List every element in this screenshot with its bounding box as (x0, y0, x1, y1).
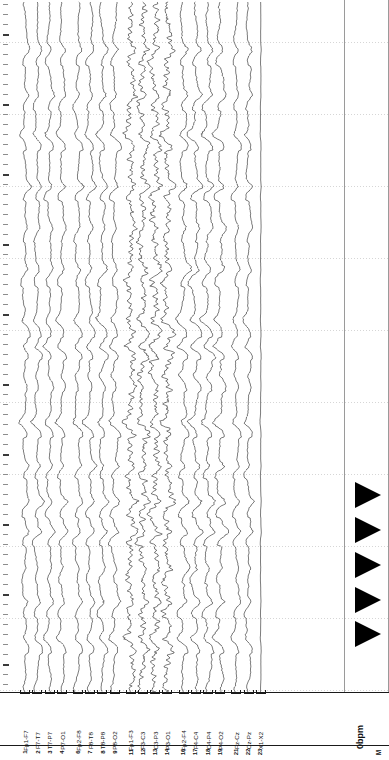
channel-label-t8-p8: T8-P8 (96, 694, 109, 744)
channel-number-13: 13 (149, 746, 162, 758)
eeg-page: Fp1-F71F7-T72T7-P73P7-O14Fp2-F86F8-T87T8… (0, 0, 389, 760)
eeg-trace-f8-t8 (82, 2, 97, 693)
calibration-tick (20, 693, 30, 694)
eeg-trace-c3-p3 (147, 2, 163, 693)
calibration-tick (45, 693, 55, 694)
calibration-tick (150, 693, 160, 694)
channel-number-text: 7 (87, 750, 93, 753)
channel-number-7: 7 (84, 746, 97, 758)
channel-number-2: 2 (31, 746, 44, 758)
channel-number-text: 6 (75, 750, 81, 753)
channel-number-11: 11 (124, 746, 137, 758)
channel-number-text: 17 (193, 749, 199, 756)
channel-label-f8-t8: F8-T8 (84, 694, 97, 744)
channel-number-text: 1 (22, 750, 28, 753)
montage-mark: M (373, 746, 385, 758)
channel-number-text: 4 (59, 750, 65, 753)
eeg-trace-fz-cz (231, 2, 242, 693)
channel-label-x1-x2: X1-X2 (254, 694, 267, 744)
channel-label-fz-cz: Fz-Cz (230, 694, 243, 744)
channel-number-23: 23 (254, 746, 267, 758)
eeg-trace-fp1-f7 (18, 2, 31, 693)
calibration-tick (138, 693, 148, 694)
eeg-trace-f4-c4 (187, 2, 203, 693)
channel-label-fp2-f8: Fp2-F8 (71, 694, 84, 744)
channel-number-text: 22 (246, 749, 252, 756)
channel-number-1: 1 (19, 746, 32, 758)
channel-label-fp1-f3: Fp1-F3 (124, 694, 137, 744)
channel-number-text: 18 (205, 749, 211, 756)
channel-number-16: 16 (177, 746, 190, 758)
eeg-trace-fp2-f4 (176, 2, 192, 693)
eeg-traces-svg (0, 0, 389, 695)
calibration-tick (162, 693, 172, 694)
channel-label-band: Fp1-F71F7-T72T7-P73P7-O14Fp2-F86F8-T87T8… (0, 692, 389, 760)
eeg-trace-p3-o1 (159, 2, 176, 693)
channel-label-p4-o2: P4-O2 (214, 694, 227, 744)
channel-number-12: 12 (136, 746, 149, 758)
channel-label-t7-p7: T7-P7 (43, 694, 56, 744)
channel-number-3: 3 (43, 746, 56, 758)
channel-label-f4-c4: F4-C4 (189, 694, 202, 744)
channel-label-c3-p3: C3-P3 (149, 694, 162, 744)
channel-number-14: 14 (161, 746, 174, 758)
channel-label-cz-pz: Cz-Pz (242, 694, 255, 744)
channel-number-text: 23 (258, 749, 264, 756)
channel-number-text: 21 (233, 749, 239, 756)
calibration-tick (32, 693, 42, 694)
calibration-tick (191, 693, 201, 694)
channel-number-21: 21 (230, 746, 243, 758)
eeg-trace-f7-t7 (30, 2, 44, 693)
channel-number-4: 4 (55, 746, 68, 758)
channel-label-p8-o2: P8-O2 (108, 694, 121, 744)
channel-number-text: 13 (152, 749, 158, 756)
channel-number-text: 8 (99, 750, 105, 753)
channel-number-18: 18 (201, 746, 214, 758)
calibration-tick (126, 693, 136, 694)
eeg-trace-p4-o2 (212, 2, 229, 693)
heart-rate-readout: 0bpm (352, 698, 367, 742)
heart-rate-value: 0bpm (355, 725, 365, 749)
calibration-tick (97, 693, 107, 694)
channel-label-f3-c3: F3-C3 (136, 694, 149, 744)
calibration-tick (179, 693, 189, 694)
eeg-trace-p8-o2 (108, 2, 121, 693)
channel-label-p7-o1: P7-O1 (55, 694, 68, 744)
calibration-tick (231, 693, 241, 694)
channel-label-fp1-f7: Fp1-F7 (19, 694, 32, 744)
calibration-tick (244, 693, 254, 694)
eeg-trace-x1-x2 (260, 2, 261, 693)
channel-number-text: 12 (140, 749, 146, 756)
channel-number-text: 14 (164, 749, 170, 756)
eeg-trace-t7-p7 (43, 2, 56, 693)
eeg-trace-f3-c3 (135, 2, 151, 693)
eeg-trace-p7-o1 (55, 2, 68, 693)
eeg-trace-fp1-f3 (122, 2, 139, 693)
channel-number-9: 9 (108, 746, 121, 758)
channel-number-17: 17 (189, 746, 202, 758)
channel-label-f7-t7: F7-T7 (31, 694, 44, 744)
channel-number-22: 22 (242, 746, 255, 758)
channel-label-c4-p4: C4-P4 (201, 694, 214, 744)
channel-number-8: 8 (96, 746, 109, 758)
eeg-trace-cz-pz (243, 2, 255, 693)
channel-number-text: 11 (128, 749, 134, 755)
channel-number-text: 9 (112, 750, 118, 753)
eeg-trace-t8-p8 (95, 2, 109, 693)
calibration-tick (57, 693, 67, 694)
page-rule-left (344, 0, 345, 695)
channel-number-text: 16 (181, 749, 187, 756)
channel-number-6: 6 (71, 746, 84, 758)
channel-label-fp2-f4: Fp2-F4 (177, 694, 190, 744)
channel-number-text: 3 (47, 750, 53, 753)
eeg-trace-fp2-f8 (72, 2, 84, 693)
eeg-trace-c4-p4 (200, 2, 216, 693)
channel-number-text: 2 (34, 750, 40, 753)
channel-number-text: 19 (217, 749, 223, 756)
calibration-tick (110, 693, 120, 694)
channel-number-19: 19 (214, 746, 227, 758)
calibration-tick (73, 693, 83, 694)
calibration-tick (256, 693, 266, 694)
calibration-tick (215, 693, 225, 694)
channel-label-p3-o1: P3-O1 (161, 694, 174, 744)
